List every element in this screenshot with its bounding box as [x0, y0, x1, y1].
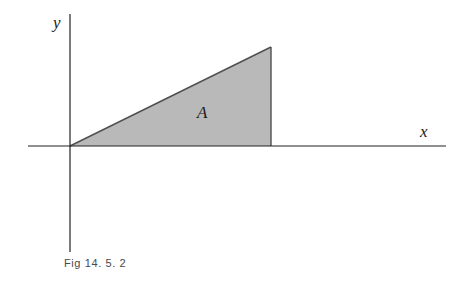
y-axis-label: y: [53, 14, 61, 31]
region-label-a: A: [197, 104, 207, 121]
figure-canvas: y x A Fig 14. 5. 2: [0, 0, 469, 291]
figure-caption: Fig 14. 5. 2: [64, 258, 126, 269]
x-axis-label: x: [420, 123, 428, 140]
figure-graphic: [0, 0, 469, 291]
